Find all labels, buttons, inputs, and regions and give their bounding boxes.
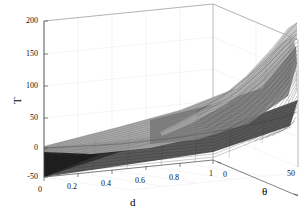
x-tick-0: 0 xyxy=(38,186,42,194)
x-tick-0p6: 0.6 xyxy=(135,177,145,185)
z-tick-0: 0 xyxy=(12,144,38,152)
x-axis-label: d xyxy=(130,197,136,208)
z-tick-50: 50 xyxy=(12,114,38,122)
y-axis-label: θ xyxy=(262,186,267,197)
z-tick-200: 200 xyxy=(12,17,38,25)
surface-plot-figure: 200 150 100 50 0 -50 0 0.2 0.4 0.6 0.8 1… xyxy=(0,0,303,214)
z-tick-neg50: -50 xyxy=(12,173,38,181)
x-tick-0p2: 0.2 xyxy=(67,183,77,191)
y-tick-50: 50 xyxy=(287,170,295,178)
z-tick-100: 100 xyxy=(12,82,38,90)
plot-canvas xyxy=(0,0,303,214)
x-tick-0p4: 0.4 xyxy=(101,180,111,188)
x-tick-1: 1 xyxy=(209,170,213,178)
z-axis-label: T xyxy=(12,97,23,104)
y-tick-0: 0 xyxy=(223,171,227,179)
x-tick-0p8: 0.8 xyxy=(169,174,179,182)
z-tick-150: 150 xyxy=(12,50,38,58)
